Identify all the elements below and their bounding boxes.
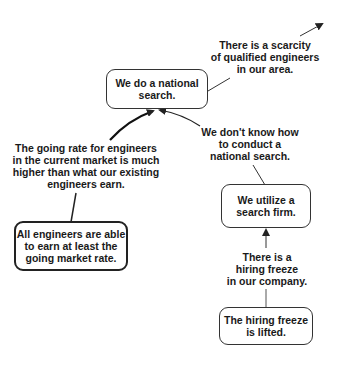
node-scarcity: There is a scarcity of qualified enginee… (206, 38, 324, 76)
node-hiring-freeze: There is a hiring freeze in our company. (222, 249, 312, 289)
node-dont-know: We don't know how to conduct a national … (190, 124, 310, 164)
node-all-earn: All engineers are able to earn at least … (14, 221, 128, 271)
node-national-search: We do a national search. (106, 69, 208, 109)
node-going-rate: The going rate for engineers in the curr… (6, 140, 166, 192)
arrow-going-rate-to-national-search (110, 111, 153, 140)
logic-diagram: We do a national search. There is a scar… (0, 0, 338, 367)
arrow-to-offscreen (300, 24, 322, 36)
connector-search-firm-to-dont-know (253, 165, 265, 185)
node-freeze-lifted: The hiring freeze is lifted. (219, 307, 313, 345)
node-search-firm: We utilize a search firm. (221, 184, 311, 228)
connector-all-earn-to-going-rate (71, 193, 76, 222)
connector-scarcity-to-box (208, 78, 230, 91)
